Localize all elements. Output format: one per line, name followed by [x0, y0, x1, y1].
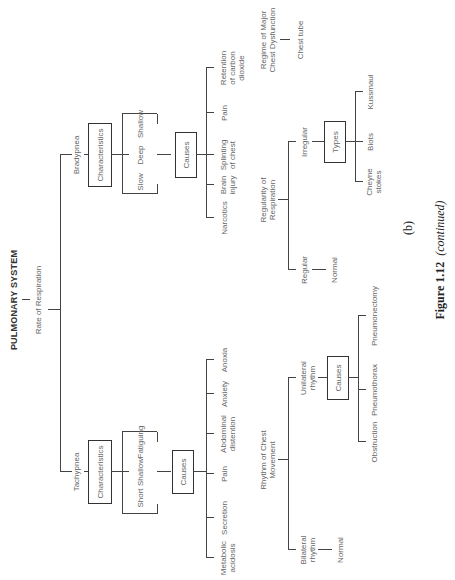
- root-node-rate-of-respiration: Rate of Respiration: [34, 266, 43, 334]
- cause-pain: Pain: [220, 105, 229, 121]
- node-regime-major-chest-dysfunction: Regime of Major Chest Dysfunction: [259, 8, 277, 73]
- node-irregular: Irregular: [300, 127, 309, 157]
- connector: [355, 181, 363, 182]
- connector: [288, 549, 296, 550]
- node-bilateral-normal: Normal: [336, 537, 345, 563]
- connector: [122, 154, 129, 155]
- connector: [358, 441, 366, 442]
- connector: [280, 39, 290, 40]
- connector: [288, 269, 296, 270]
- char-fatiguing: Fatiguing: [136, 426, 145, 459]
- connector: [206, 557, 214, 558]
- connector: [318, 549, 332, 550]
- type-biots: Biots: [366, 133, 375, 151]
- connector: [60, 154, 72, 155]
- connector: [206, 393, 214, 394]
- box-label: Characteristics: [96, 446, 105, 499]
- connector: [206, 112, 214, 113]
- bradypnea-causes-box: Causes: [175, 132, 197, 178]
- bracket-top: [122, 432, 123, 514]
- node-unilateral-rhythm: Unilateral rhythm: [299, 361, 317, 395]
- node-regular: Regular: [300, 256, 309, 284]
- connector: [196, 154, 206, 155]
- node-bilateral-rhythm: Bilateral rhythm: [299, 536, 317, 565]
- connector: [60, 471, 72, 472]
- connector: [288, 377, 296, 378]
- cause-obstruction: Obstruction: [370, 422, 379, 463]
- main-bus: [60, 154, 61, 472]
- char-deep: Deep: [136, 145, 145, 164]
- type-cheyne-stokes: Cheyne stokes: [365, 168, 383, 196]
- connector: [278, 459, 288, 460]
- connector: [22, 299, 30, 300]
- causes-bus: [206, 360, 207, 558]
- cause-splinting-of-chest: Splinting of chest: [219, 140, 237, 171]
- bracket-tick: [157, 184, 158, 194]
- types-box: Types: [324, 121, 346, 163]
- connector: [157, 471, 171, 472]
- connector: [206, 154, 214, 155]
- rhythm-causes-box: Causes: [327, 356, 349, 400]
- cause-abdominal-distention: Abdominal distention: [219, 415, 237, 453]
- node-chest-tube: Chest tube: [296, 21, 305, 60]
- connector: [206, 433, 214, 434]
- connector: [206, 473, 214, 474]
- cause-metabolic-acidosis: Metabolic acidosis: [219, 541, 237, 575]
- bradypnea-characteristics-box: Characteristics: [88, 123, 112, 187]
- bracket-left: [122, 513, 157, 514]
- char-slow: Slow: [136, 173, 145, 190]
- cause-retention-of-co2: Retention of carbon dioxide: [219, 51, 246, 85]
- diagram-canvas: PULMONARY SYSTEM Rate of Respiration Tac…: [0, 0, 455, 580]
- connector: [312, 141, 324, 142]
- node-bradypnea: Bradypnea: [72, 136, 81, 175]
- rhythm-bus: [288, 378, 289, 550]
- connector: [355, 141, 363, 142]
- connector: [111, 471, 122, 472]
- bracket-tick: [157, 432, 158, 442]
- rhythm-causes-bus: [358, 316, 359, 442]
- connector: [288, 141, 296, 142]
- char-shallow: Shallow: [136, 458, 145, 486]
- figure-caption: Figure 1.12 (continued): [436, 200, 445, 319]
- diagram-title: PULMONARY SYSTEM: [10, 250, 19, 350]
- connector: [111, 154, 122, 155]
- bracket-tick: [157, 114, 158, 124]
- cause-pain: Pain: [220, 466, 229, 482]
- connector: [312, 269, 326, 270]
- box-label: Types: [331, 131, 340, 152]
- connector: [48, 309, 60, 310]
- regularity-bus: [288, 142, 289, 270]
- cause-pneumonectomy: Pneumonectomy: [370, 286, 379, 346]
- connector: [206, 217, 214, 218]
- connector: [345, 141, 355, 142]
- causes-bus: [206, 68, 207, 218]
- char-short: Short: [136, 488, 145, 507]
- connector: [348, 377, 358, 378]
- tachypnea-characteristics-box: Characteristics: [88, 440, 112, 504]
- node-rhythm-of-chest-movement: Rhythm of Chest Movement: [259, 430, 277, 490]
- box-label: Causes: [182, 141, 191, 168]
- node-regular-normal: Normal: [330, 257, 339, 283]
- type-kussmaul: Kussmaul: [366, 74, 375, 109]
- box-label: Causes: [179, 458, 188, 485]
- cause-secretion: Secretion: [220, 501, 229, 535]
- caption-figure: Figure 1.12: [433, 262, 447, 320]
- box-label: Causes: [334, 364, 343, 391]
- box-label: Characteristics: [96, 129, 105, 182]
- connector: [355, 91, 363, 92]
- cause-anxiety: Anxiety: [220, 381, 229, 407]
- connector: [193, 471, 206, 472]
- connector: [206, 184, 214, 185]
- node-tachypnea: Tachypnea: [72, 453, 81, 492]
- cause-anoxia: Anoxia: [220, 348, 229, 372]
- connector: [206, 359, 214, 360]
- cause-narcotics: Narcotics: [220, 201, 229, 234]
- connector: [278, 199, 288, 200]
- connector: [206, 517, 214, 518]
- node-regularity-of-respiration: Regularity of Respiration: [259, 178, 277, 223]
- caption-note: (continued): [433, 200, 447, 255]
- cause-pneumothorax: Pneumothorax: [370, 364, 379, 416]
- connector: [157, 154, 171, 155]
- panel-label: (b): [404, 221, 413, 235]
- bracket-tick: [157, 504, 158, 514]
